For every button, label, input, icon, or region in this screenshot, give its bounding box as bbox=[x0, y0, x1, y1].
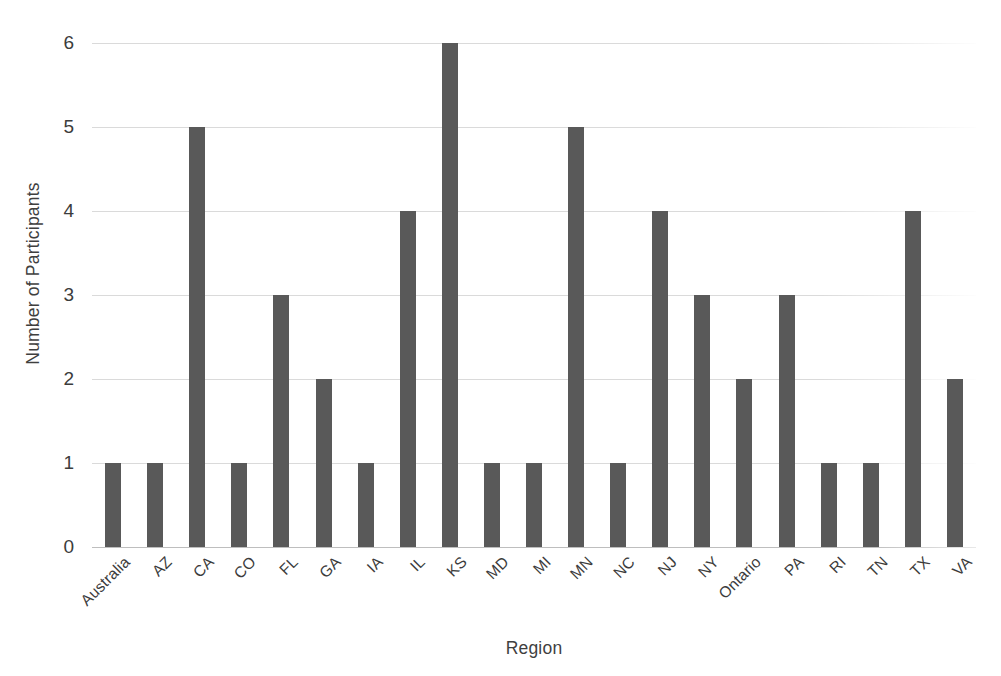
bar bbox=[484, 463, 500, 547]
x-tick-label: KS bbox=[443, 553, 471, 581]
x-axis-title: Region bbox=[92, 638, 976, 659]
x-tick-label: TX bbox=[907, 553, 934, 580]
bar bbox=[105, 463, 121, 547]
y-tick-label: 3 bbox=[63, 284, 74, 306]
x-tick-label: NY bbox=[695, 553, 723, 581]
x-tick-label: AZ bbox=[149, 553, 176, 580]
bar bbox=[610, 463, 626, 547]
plot-area: 0123456 bbox=[92, 43, 976, 547]
x-tick-label: GA bbox=[315, 553, 344, 582]
x-axis-tick-labels: AustraliaAZCACOFLGAIAILKSMDMIMNNCNJNYOnt… bbox=[92, 549, 976, 629]
x-tick-label: Australia bbox=[77, 553, 134, 610]
x-tick-label: MD bbox=[483, 553, 513, 583]
bar bbox=[273, 295, 289, 547]
bar bbox=[568, 127, 584, 547]
bar bbox=[231, 463, 247, 547]
y-tick-label: 6 bbox=[63, 32, 74, 54]
y-tick-label: 0 bbox=[63, 536, 74, 558]
x-tick-label: FL bbox=[276, 553, 302, 579]
x-tick-label: MN bbox=[567, 553, 597, 583]
y-tick-label: 5 bbox=[63, 116, 74, 138]
bar bbox=[694, 295, 710, 547]
x-tick-label: IA bbox=[363, 553, 386, 576]
bar bbox=[400, 211, 416, 547]
bar bbox=[652, 211, 668, 547]
x-tick-label: RI bbox=[825, 553, 849, 577]
x-tick-label: Ontario bbox=[716, 553, 766, 603]
x-tick-label: MI bbox=[530, 553, 555, 578]
bar bbox=[736, 379, 752, 547]
bar bbox=[779, 295, 795, 547]
y-tick-label: 2 bbox=[63, 368, 74, 390]
bar-series bbox=[92, 43, 976, 547]
bar bbox=[189, 127, 205, 547]
x-tick-label: NJ bbox=[655, 553, 681, 579]
bar-chart-figure: Number of Participants 0123456 Australia… bbox=[0, 0, 1001, 676]
x-tick-label: PA bbox=[780, 553, 807, 580]
y-tick-label: 4 bbox=[63, 200, 74, 222]
x-tick-label: IL bbox=[406, 553, 428, 575]
x-tick-label: NC bbox=[610, 553, 639, 582]
bar bbox=[358, 463, 374, 547]
x-tick-label: CA bbox=[190, 553, 218, 581]
bar bbox=[905, 211, 921, 547]
bar bbox=[821, 463, 837, 547]
bar bbox=[147, 463, 163, 547]
x-tick-label: VA bbox=[949, 553, 976, 580]
bar bbox=[863, 463, 879, 547]
x-tick-label: TN bbox=[864, 553, 892, 581]
y-tick-label: 1 bbox=[63, 452, 74, 474]
bar bbox=[947, 379, 963, 547]
gridline-0 bbox=[92, 547, 976, 548]
bar bbox=[526, 463, 542, 547]
bar bbox=[442, 43, 458, 547]
x-tick-label: CO bbox=[231, 553, 260, 582]
bar bbox=[316, 379, 332, 547]
y-axis-title: Number of Participants bbox=[20, 0, 46, 547]
